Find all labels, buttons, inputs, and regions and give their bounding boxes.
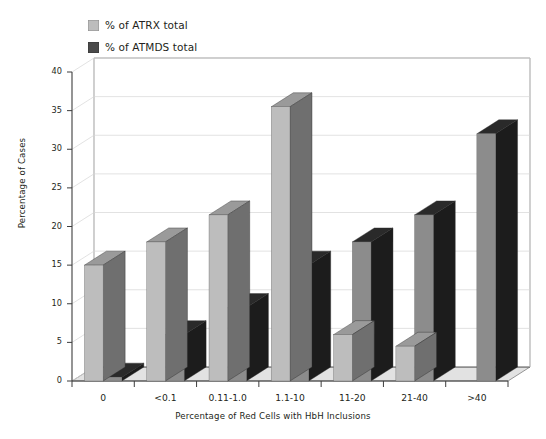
plot-area	[0, 0, 546, 439]
y-tick-label: 40	[40, 66, 62, 76]
x-axis-title: Percentage of Red Cells with HbH Inclusi…	[0, 411, 546, 421]
y-tick-label: 5	[40, 336, 62, 346]
x-tick-label: <0.1	[129, 392, 201, 403]
bar-atrx-0	[84, 251, 125, 381]
bar-chart: % of ATRX total % of ATMDS total Percent…	[0, 0, 546, 439]
y-tick-label: 20	[40, 221, 62, 231]
y-tick-label: 35	[40, 105, 62, 115]
y-tick-label: 25	[40, 182, 62, 192]
bar-atrx-2	[209, 201, 250, 381]
y-tick-label: 0	[40, 375, 62, 385]
x-tick-label: 21-40	[379, 392, 451, 403]
bar-atmds-6	[477, 120, 518, 381]
x-tick-label: 0	[67, 392, 139, 403]
x-tick-label: >40	[441, 392, 513, 403]
x-tick-label: 11-20	[316, 392, 388, 403]
bar-atrx-1	[147, 228, 188, 381]
bar-atrx-3	[271, 93, 312, 381]
x-tick-label: 1.1-10	[254, 392, 326, 403]
y-tick-label: 30	[40, 143, 62, 153]
y-axis-title: Percentage of Cases	[17, 128, 27, 238]
y-tick-label: 10	[40, 298, 62, 308]
y-tick-label: 15	[40, 259, 62, 269]
x-tick-label: 0.11-1.0	[192, 392, 264, 403]
